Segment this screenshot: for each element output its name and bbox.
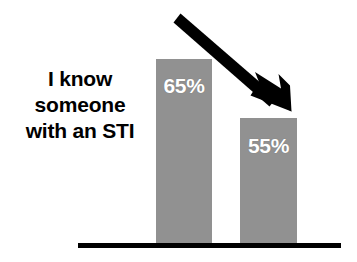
plot-area: 65% 55%: [0, 0, 357, 262]
chart-canvas: I know someone with an STI 65% 55%: [0, 0, 357, 262]
bar-65-percent: 65%: [156, 59, 212, 243]
bar-label-55-percent: 55%: [240, 135, 297, 156]
axis-baseline: [78, 243, 341, 248]
bar-label-65-percent: 65%: [156, 75, 212, 96]
bar-55-percent: 55%: [240, 118, 297, 243]
